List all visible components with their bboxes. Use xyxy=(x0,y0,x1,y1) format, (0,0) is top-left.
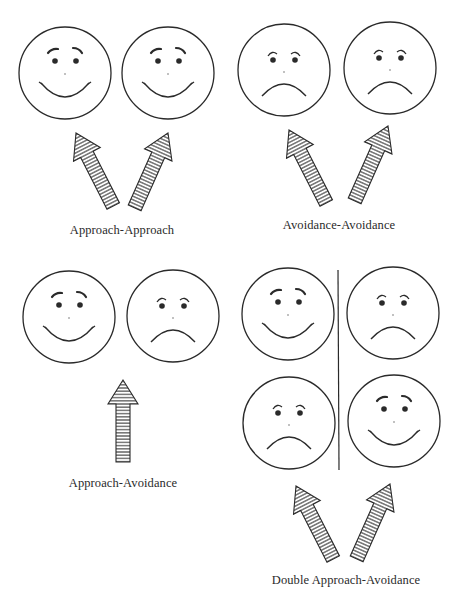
divider-line xyxy=(338,270,339,470)
label-avoidance-avoidance: Avoidance-Avoidance xyxy=(283,218,396,233)
sad-face-icon xyxy=(243,377,335,469)
happy-face-icon xyxy=(122,27,214,119)
striped-arrow-icon xyxy=(341,120,402,207)
happy-face-icon xyxy=(242,268,334,360)
striped-arrow-icon xyxy=(63,126,127,213)
panel-approach-approach xyxy=(19,27,214,214)
label-approach-approach: Approach-Approach xyxy=(70,223,174,238)
striped-arrow-icon xyxy=(283,479,347,566)
striped-arrow-icon xyxy=(343,478,404,565)
panel-double-approach-avoidance xyxy=(242,267,440,566)
label-double-approach-avoidance: Double Approach-Avoidance xyxy=(272,573,420,588)
sad-face-icon xyxy=(344,22,436,114)
happy-face-icon xyxy=(23,271,115,363)
conflict-types-figure xyxy=(0,0,462,599)
panel-approach-avoidance xyxy=(23,270,219,462)
striped-arrow-icon xyxy=(108,380,138,462)
striped-arrow-icon xyxy=(276,123,340,210)
happy-face-icon xyxy=(348,375,440,467)
panel-avoidance-avoidance xyxy=(238,22,436,210)
happy-face-icon xyxy=(19,27,111,119)
sad-face-icon xyxy=(347,267,439,359)
label-approach-avoidance: Approach-Avoidance xyxy=(69,476,177,491)
sad-face-icon xyxy=(127,270,219,362)
sad-face-icon xyxy=(238,24,330,116)
striped-arrow-icon xyxy=(121,127,182,214)
